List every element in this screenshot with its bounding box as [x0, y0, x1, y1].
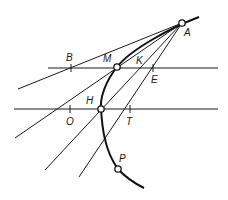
point-H [98, 106, 104, 112]
label-O: O [66, 116, 74, 127]
label-T: T [126, 116, 133, 127]
label-A: A [183, 27, 191, 38]
point-P [115, 166, 121, 172]
geometry-diagram: A B M K E H O T P [0, 0, 228, 200]
label-M: M [103, 53, 112, 64]
label-E: E [151, 74, 158, 85]
label-H: H [86, 95, 94, 106]
label-P: P [119, 153, 126, 164]
line-A-K [45, 23, 182, 170]
label-B: B [66, 52, 73, 63]
curve [101, 17, 199, 188]
line-A-E [79, 23, 182, 177]
point-M [114, 64, 120, 70]
point-A [179, 20, 185, 26]
